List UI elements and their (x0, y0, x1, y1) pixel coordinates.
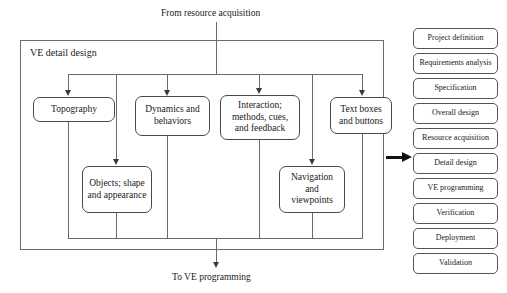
branch-line-topography (68, 74, 69, 91)
stage-ve-programming[interactable]: VE programming (413, 178, 498, 199)
inlet-label: From resource acquisition (161, 8, 260, 19)
pointer-shaft (386, 156, 403, 159)
stage-verification[interactable]: Verification (413, 203, 498, 224)
container-label: VE detail design (30, 47, 97, 58)
box-dynamics[interactable]: Dynamics and behaviors (135, 96, 210, 136)
box-interaction[interactable]: Interaction; methods, cues, and feedback (220, 95, 300, 140)
top-bus (68, 74, 363, 75)
diagram-canvas: From resource acquisition VE detail desi… (0, 0, 507, 293)
arrowhead-topography (65, 90, 71, 96)
ve-detail-design-container (20, 40, 384, 250)
stage-deployment[interactable]: Deployment (413, 228, 498, 249)
descender-interaction (259, 140, 260, 238)
branch-line-textboxes (362, 74, 363, 91)
outlet-connector (216, 238, 217, 263)
stage-specification[interactable]: Specification (413, 78, 498, 99)
box-navigation[interactable]: Navigation and viewpoints (279, 166, 345, 213)
stage-resource-acquisition[interactable]: Resource acquisition (413, 128, 498, 149)
descender-navigation (312, 213, 313, 238)
box-textboxes[interactable]: Text boxes and buttons (330, 97, 392, 134)
box-objects[interactable]: Objects; shape and appearance (82, 166, 152, 213)
box-topography[interactable]: Topography (33, 97, 115, 122)
branch-line-navigation (312, 74, 313, 160)
arrowhead-navigation (309, 159, 315, 165)
branch-line-interaction (259, 74, 260, 89)
stage-requirements-analysis[interactable]: Requirements analysis (413, 53, 498, 74)
outlet-label: To VE programming (172, 272, 251, 283)
lifecycle-stage-list: Project definition Requirements analysis… (413, 28, 498, 278)
stage-project-definition[interactable]: Project definition (413, 28, 498, 49)
arrowhead-outlet (213, 262, 219, 268)
detail-design-pointer-arrow (386, 152, 412, 163)
stage-detail-design[interactable]: Detail design (413, 153, 498, 174)
stage-validation[interactable]: Validation (413, 253, 498, 274)
descender-textboxes (362, 134, 363, 238)
branch-line-dynamics (167, 74, 168, 91)
arrowhead-textboxes (359, 90, 365, 96)
stage-overall-design[interactable]: Overall design (413, 103, 498, 124)
arrowhead-interaction (256, 88, 262, 94)
branch-line-objects (116, 74, 117, 160)
pointer-arrowhead-icon (402, 152, 412, 162)
descender-topography (68, 122, 69, 238)
arrowhead-objects (113, 159, 119, 165)
descender-objects (116, 213, 117, 238)
descender-dynamics (167, 136, 168, 238)
